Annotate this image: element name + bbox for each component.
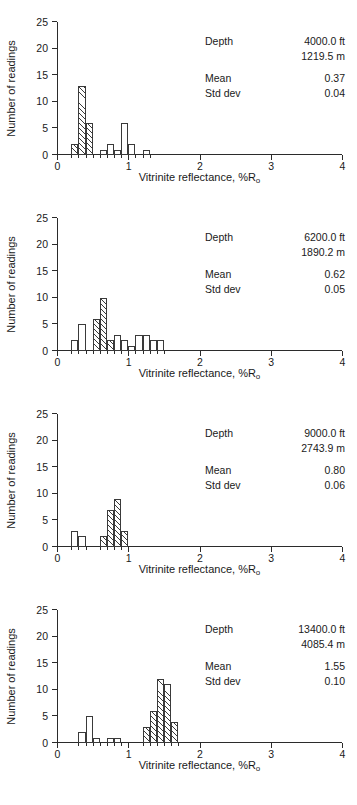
x-axis-tick: 3 <box>271 743 272 748</box>
x-axis-minor-tick <box>114 351 115 354</box>
histogram-bar <box>100 298 107 351</box>
y-axis-tick-label: 25 <box>36 212 48 223</box>
y-axis-tick: 25 <box>52 413 57 414</box>
histogram-bar <box>78 324 85 351</box>
x-axis-tick-label: 2 <box>197 161 203 172</box>
x-axis-tick: 0 <box>57 547 58 552</box>
x-axis-label-subscript: o <box>256 764 260 773</box>
y-axis-tick: 10 <box>52 101 57 102</box>
histogram-bar <box>150 340 157 351</box>
x-axis-tick: 3 <box>271 155 272 160</box>
statistics-value: 4000.0 ft <box>304 34 345 49</box>
histogram-bar <box>157 340 164 351</box>
statistics-row: Depth9000.0 ft <box>205 426 345 441</box>
x-axis-label: Vitrinite reflectance, %Ro <box>57 368 342 379</box>
statistics-spacer <box>205 456 345 463</box>
x-axis-tick-label: 0 <box>55 553 61 564</box>
y-axis-tick-label: 20 <box>36 43 48 54</box>
histogram-panel: Number of readings051015202501234Vitrini… <box>0 588 357 784</box>
x-axis-minor-tick <box>171 743 172 746</box>
histogram-bar <box>135 335 142 351</box>
x-axis-minor-tick <box>100 351 101 354</box>
statistics-spacer <box>205 652 345 659</box>
x-axis-tick: 2 <box>200 547 201 552</box>
histogram-bar <box>93 738 100 743</box>
histogram-panel: Number of readings051015202501234Vitrini… <box>0 196 357 392</box>
histogram-bar <box>121 340 128 351</box>
x-axis-minor-tick <box>143 743 144 746</box>
y-axis-tick-label: 20 <box>36 631 48 642</box>
x-axis-minor-tick <box>100 743 101 746</box>
histogram-bar <box>93 319 100 351</box>
x-axis-minor-tick <box>78 155 79 158</box>
x-axis-minor-tick <box>121 155 122 158</box>
statistics-block: Depth6200.0 ft1890.2 mMean0.62Std dev0.0… <box>205 230 345 297</box>
x-axis-label-text: Vitrinite reflectance, %R <box>139 171 256 183</box>
statistics-key: Depth <box>205 34 233 49</box>
y-axis-tick: 5 <box>52 323 57 324</box>
histogram-bar <box>143 150 150 155</box>
x-axis-tick-label: 3 <box>268 357 274 368</box>
x-axis-minor-tick <box>100 547 101 550</box>
histogram-bar <box>143 335 150 351</box>
statistics-row: Std dev0.05 <box>205 282 345 297</box>
histogram-panel: Number of readings051015202501234Vitrini… <box>0 392 357 588</box>
x-axis-minor-tick <box>86 547 87 550</box>
statistics-value: 9000.0 ft <box>304 426 345 441</box>
x-axis-tick-label: 3 <box>268 553 274 564</box>
statistics-row: Std dev0.06 <box>205 478 345 493</box>
y-axis-tick-label: 15 <box>36 69 48 80</box>
x-axis-minor-tick <box>107 351 108 354</box>
x-axis-minor-tick <box>114 743 115 746</box>
y-axis-tick-label: 0 <box>42 149 48 160</box>
y-axis-tick: 20 <box>52 636 57 637</box>
y-axis-tick-label: 25 <box>36 604 48 615</box>
x-axis-label-text: Vitrinite reflectance, %R <box>139 563 256 575</box>
statistics-value: 1.55 <box>325 659 345 674</box>
histogram-bar <box>114 738 121 743</box>
x-axis-tick-label: 2 <box>197 357 203 368</box>
statistics-row: Depth13400.0 ft <box>205 622 345 637</box>
x-axis-minor-tick <box>121 743 122 746</box>
x-axis-minor-tick <box>107 547 108 550</box>
y-axis-tick-label: 5 <box>42 319 48 330</box>
y-axis-tick-label: 10 <box>36 488 48 499</box>
x-axis-tick: 0 <box>57 743 58 748</box>
histogram-bar <box>143 727 150 743</box>
statistics-block: Depth9000.0 ft2743.9 mMean0.80Std dev0.0… <box>205 426 345 493</box>
x-axis-tick: 4 <box>342 547 343 552</box>
statistics-row: Std dev0.04 <box>205 86 345 101</box>
statistics-key: Std dev <box>205 86 241 101</box>
x-axis-tick-label: 0 <box>55 161 61 172</box>
y-axis-tick: 15 <box>52 662 57 663</box>
statistics-key: Std dev <box>205 674 241 689</box>
histogram-bar <box>114 150 121 155</box>
x-axis-label: Vitrinite reflectance, %Ro <box>57 564 342 575</box>
x-axis-tick-label: 1 <box>126 357 132 368</box>
x-axis-label-text: Vitrinite reflectance, %R <box>139 367 256 379</box>
histogram-bar <box>150 711 157 743</box>
x-axis-minor-tick <box>164 743 165 746</box>
x-axis-tick: 1 <box>128 155 129 160</box>
y-axis-tick: 20 <box>52 440 57 441</box>
statistics-value: 0.04 <box>325 86 345 101</box>
y-axis-tick-label: 25 <box>36 16 48 27</box>
y-axis-tick-label: 20 <box>36 239 48 250</box>
x-axis-minor-tick <box>157 743 158 746</box>
vitrinite-reflectance-figure: Number of readings051015202501234Vitrini… <box>0 0 357 805</box>
x-axis-tick-label: 4 <box>340 161 346 172</box>
x-axis-tick-label: 0 <box>55 357 61 368</box>
statistics-row: 1219.5 m <box>205 49 345 64</box>
histogram-bar <box>86 123 93 155</box>
x-axis-minor-tick <box>114 547 115 550</box>
x-axis-tick-label: 0 <box>55 749 61 760</box>
histogram-bar <box>78 732 85 743</box>
x-axis-label: Vitrinite reflectance, %Ro <box>57 760 342 771</box>
statistics-value: 0.10 <box>325 674 345 689</box>
x-axis-minor-tick <box>143 155 144 158</box>
y-axis-label: Number of readings <box>4 414 18 547</box>
statistics-value: 0.05 <box>325 282 345 297</box>
y-axis-line <box>57 610 58 743</box>
histogram-bar <box>114 335 121 351</box>
statistics-value: 0.62 <box>325 267 345 282</box>
